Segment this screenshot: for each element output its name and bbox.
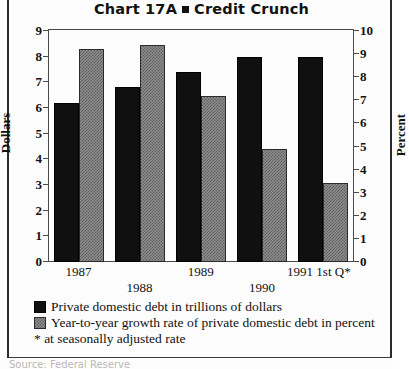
y-tick-right — [354, 76, 359, 77]
y-tick-label-left: 2 — [16, 204, 42, 217]
chart-title-prefix: Chart 17A — [94, 1, 177, 17]
y-tick-label-right: 2 — [360, 209, 386, 222]
bar-dollars — [115, 87, 140, 262]
x-tick-label: 1989 — [188, 264, 214, 280]
y-tick-label-right: 6 — [360, 116, 386, 129]
legend-label-hatched: Year-to-year growth rate of private dome… — [51, 315, 375, 330]
y-tick-label-left: 8 — [16, 50, 42, 63]
y-tick-label-right: 5 — [360, 140, 386, 153]
y-axis-right-title: Percent — [393, 114, 409, 156]
source-note: Source: Federal Reserve — [9, 359, 130, 369]
bar-percent — [262, 149, 287, 262]
x-tick-label: 1991 1st Q* — [287, 264, 351, 280]
x-axis-labels: 19871988198919901991 1st Q* — [48, 264, 368, 298]
y-tick-label-right: 4 — [360, 163, 386, 176]
chart-legend: Private domestic debt in trillions of do… — [34, 299, 384, 346]
y-tick-right — [354, 53, 359, 54]
bar-dollars — [176, 72, 201, 262]
y-tick-label-right: 10 — [360, 24, 386, 37]
bar-percent — [201, 96, 226, 262]
y-tick-label-left: 7 — [16, 75, 42, 88]
legend-swatch-hatched-icon — [34, 317, 46, 329]
y-tick-label-right: 1 — [360, 232, 386, 245]
bar-series-container — [48, 31, 354, 262]
legend-footnote: * at seasonally adjusted rate — [34, 331, 384, 346]
chart-title: Chart 17ACredit Crunch — [9, 1, 394, 17]
y-tick-right — [354, 238, 359, 239]
square-bullet-icon — [182, 6, 189, 13]
y-tick-right — [354, 261, 359, 262]
y-tick-label-right: 3 — [360, 186, 386, 199]
bar-dollars — [54, 103, 79, 262]
y-tick-label-right: 7 — [360, 93, 386, 106]
y-tick-right — [354, 192, 359, 193]
y-tick-right — [354, 30, 359, 31]
y-tick-right — [354, 99, 359, 100]
bar-dollars — [298, 57, 323, 262]
y-axis-left-title: Dollars — [0, 113, 14, 153]
legend-item-dark: Private domestic debt in trillions of do… — [34, 299, 384, 314]
x-tick-label: 1988 — [127, 280, 153, 296]
y-tick-label-right: 9 — [360, 47, 386, 60]
plot-area: 9876543210 109876543210 Dollars Percent — [48, 29, 354, 262]
y-tick-label-left: 4 — [16, 152, 42, 165]
y-tick-label-left: 1 — [16, 229, 42, 242]
legend-swatch-dark-icon — [34, 301, 46, 313]
bar-percent — [140, 45, 165, 262]
x-tick-label: 1987 — [65, 264, 91, 280]
y-tick-label-left: 5 — [16, 127, 42, 140]
chart-frame: Chart 17ACredit Crunch 9876543210 109876… — [7, 0, 392, 358]
y-tick-right — [354, 122, 359, 123]
y-tick-right — [354, 169, 359, 170]
legend-item-hatched: Year-to-year growth rate of private dome… — [34, 315, 384, 330]
y-tick-label-left: 0 — [16, 255, 42, 268]
bar-dollars — [237, 57, 262, 262]
y-tick-label-right: 8 — [360, 70, 386, 83]
x-tick-label: 1990 — [249, 280, 275, 296]
chart-title-suffix: Credit Crunch — [194, 1, 309, 17]
legend-label-dark: Private domestic debt in trillions of do… — [51, 299, 282, 314]
y-tick-right — [354, 146, 359, 147]
bar-percent — [79, 49, 104, 262]
y-tick-label-left: 6 — [16, 101, 42, 114]
y-tick-label-left: 3 — [16, 178, 42, 191]
bar-percent — [323, 183, 348, 262]
y-tick-right — [354, 215, 359, 216]
y-tick-label-left: 9 — [16, 24, 42, 37]
